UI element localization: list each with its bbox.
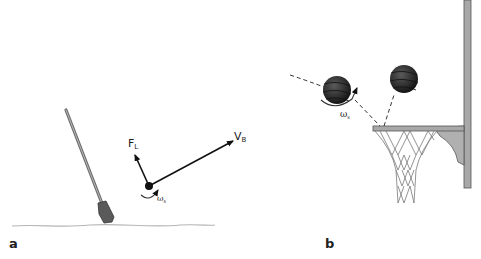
rim-bracket [434, 126, 464, 165]
spin-arc-a [141, 190, 158, 198]
hoop-rim [373, 126, 464, 131]
basketball-rebound [390, 65, 418, 93]
ground-line [12, 225, 215, 227]
lift-force-arrow [135, 155, 149, 186]
basketball-incoming [323, 76, 351, 104]
panel-b-drawing [290, 0, 471, 203]
lift-force-label: FL [128, 137, 138, 151]
velocity-label: VB [234, 130, 246, 144]
velocity-arrow [149, 141, 233, 186]
spin-label-a: ωs [157, 194, 166, 204]
panel-label-b: b [325, 236, 334, 251]
panel-label-a: a [9, 236, 18, 251]
hoop-net [375, 131, 437, 203]
golf-club-head [98, 201, 114, 223]
hoop-pole [464, 0, 471, 188]
panel-a-drawing [12, 110, 233, 226]
spin-label-b: ωs [340, 109, 350, 120]
